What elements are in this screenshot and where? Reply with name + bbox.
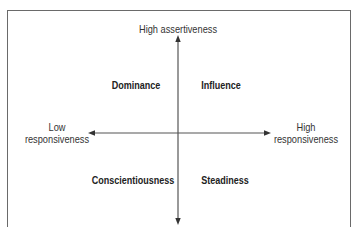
arrow-up-icon — [175, 35, 180, 42]
label-high-line2: responsiveness — [271, 133, 341, 145]
label-high-line1: High — [271, 121, 341, 133]
quadrant-conscientiousness: Conscientiousness — [88, 174, 178, 186]
quadrant-influence: Influence — [196, 79, 245, 91]
quadrant-steadiness: Steadiness — [196, 174, 253, 186]
label-low-line2-visible: responsiveness — [22, 133, 92, 145]
label-high-assertiveness: High assertiveness — [134, 23, 222, 35]
quadrant-dominance: Dominance — [107, 79, 164, 91]
arrow-down-icon — [175, 218, 180, 225]
label-high-responsiveness: High responsiveness — [271, 121, 341, 145]
label-low-responsiveness: Low responsiveness responsiveness — [22, 121, 92, 145]
label-low-line1: Low — [22, 121, 92, 133]
